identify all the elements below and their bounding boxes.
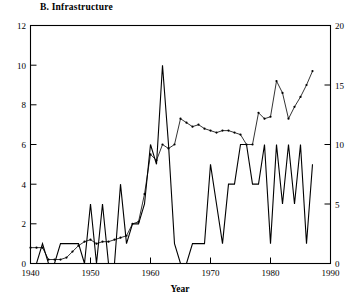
series-marker-cumulative-index	[305, 84, 307, 86]
series-marker-cumulative-index	[269, 116, 271, 118]
y-right-tick-20: 20	[335, 21, 345, 31]
series-marker-cumulative-index	[131, 223, 133, 225]
y-right-tick-15: 15	[335, 81, 345, 91]
series-marker-cumulative-index	[245, 143, 247, 145]
series-marker-cumulative-index	[299, 96, 301, 98]
plot-frame	[31, 26, 331, 264]
x-axis-title: Year	[171, 284, 191, 294]
chart-figure: B. Infrastructure 0 2 4 6 8 10 12	[0, 0, 364, 302]
series-line-annual-count	[31, 65, 313, 263]
x-tick-1950: 1950	[82, 268, 101, 278]
series-marker-cumulative-index	[137, 221, 139, 223]
series-marker-cumulative-index	[29, 247, 31, 249]
series-marker-cumulative-index	[35, 247, 37, 249]
y-left-axis-ticks	[31, 26, 37, 264]
series-marker-cumulative-index	[203, 128, 205, 130]
chart-series-group	[29, 65, 313, 263]
series-marker-cumulative-index	[197, 124, 199, 126]
series-marker-cumulative-index	[77, 245, 79, 247]
series-marker-cumulative-index	[179, 118, 181, 120]
series-marker-cumulative-index	[275, 80, 277, 82]
y-left-axis-labels: 0 2 4 6 8 10 12	[17, 21, 27, 269]
series-marker-cumulative-index	[257, 112, 259, 114]
series-marker-cumulative-index	[83, 241, 85, 243]
series-marker-cumulative-index	[155, 159, 157, 161]
series-marker-cumulative-index	[119, 237, 121, 239]
y-right-axis-ticks	[325, 26, 331, 264]
series-marker-cumulative-index	[221, 130, 223, 132]
series-marker-cumulative-index	[251, 143, 253, 145]
x-tick-1980: 1980	[262, 268, 281, 278]
series-marker-cumulative-index	[227, 130, 229, 132]
y-right-axis-labels: 0 5 10 15 20	[335, 21, 345, 269]
series-marker-cumulative-index	[173, 143, 175, 145]
series-marker-cumulative-index	[185, 122, 187, 124]
series-marker-cumulative-index	[143, 193, 145, 195]
y-left-tick-10: 10	[17, 61, 27, 71]
y-right-tick-5: 5	[335, 200, 340, 210]
series-marker-cumulative-index	[167, 147, 169, 149]
series-marker-cumulative-index	[149, 153, 151, 155]
series-marker-cumulative-index	[191, 126, 193, 128]
series-marker-cumulative-index	[287, 118, 289, 120]
series-marker-cumulative-index	[209, 130, 211, 132]
y-left-tick-4: 4	[22, 180, 27, 190]
x-axis-labels: 1940 1950 1960 1970 1980 1990	[22, 268, 341, 278]
x-tick-1970: 1970	[202, 268, 221, 278]
series-marker-cumulative-index	[263, 118, 265, 120]
series-marker-cumulative-index	[65, 256, 67, 258]
series-marker-cumulative-index	[41, 247, 43, 249]
x-tick-1940: 1940	[22, 268, 41, 278]
series-marker-cumulative-index	[101, 241, 103, 243]
x-tick-1960: 1960	[142, 268, 161, 278]
series-marker-cumulative-index	[233, 132, 235, 134]
series-marker-cumulative-index	[71, 251, 73, 253]
y-left-tick-12: 12	[17, 21, 26, 31]
series-marker-cumulative-index	[281, 92, 283, 94]
series-marker-cumulative-index	[125, 235, 127, 237]
series-marker-cumulative-index	[161, 143, 163, 145]
series-marker-cumulative-index	[293, 106, 295, 108]
series-marker-cumulative-index	[113, 239, 115, 241]
series-marker-cumulative-index	[215, 132, 217, 134]
series-marker-cumulative-index	[311, 70, 313, 72]
y-left-tick-2: 2	[22, 219, 27, 229]
series-marker-cumulative-index	[95, 243, 97, 245]
series-marker-cumulative-index	[47, 258, 49, 260]
series-marker-cumulative-index	[239, 133, 241, 135]
y-left-tick-8: 8	[22, 100, 27, 110]
series-marker-cumulative-index	[89, 239, 91, 241]
series-marker-cumulative-index	[53, 258, 55, 260]
y-left-tick-6: 6	[22, 140, 27, 150]
series-marker-cumulative-index	[59, 258, 61, 260]
chart-plot-area: 0 2 4 6 8 10 12 0 5 10 15 20	[0, 0, 364, 302]
x-tick-1990: 1990	[322, 268, 341, 278]
series-marker-cumulative-index	[107, 241, 109, 243]
y-right-tick-10: 10	[335, 140, 345, 150]
